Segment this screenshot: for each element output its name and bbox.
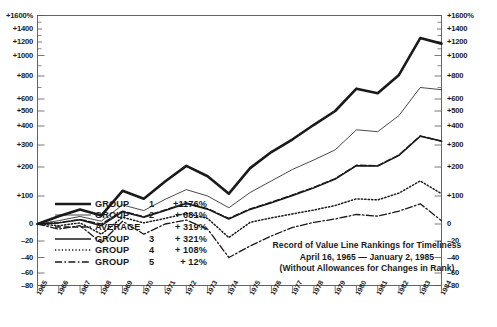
legend-line-swatch [55, 199, 91, 209]
y-label-right-1: +1400 [447, 25, 467, 33]
legend-series-value: + 12% [163, 257, 207, 267]
legend-series-value: + 319% [163, 222, 207, 232]
y-label-left-1: +1400 [0, 25, 33, 33]
title-line-2: April 16, 1965 — January 2, 1985 [253, 252, 481, 264]
legend-line-swatch [55, 245, 91, 255]
legend-series-value: + 321% [163, 234, 207, 244]
chart-title-block: Record of Value Line Rankings for Timeli… [253, 240, 481, 275]
legend-series-number: 3 [149, 234, 163, 244]
y-label-right-6: +500 [447, 107, 463, 115]
legend-line-swatch [55, 210, 91, 220]
line-chart-plot [0, 0, 497, 327]
legend-series-number: 4 [149, 245, 163, 255]
legend-row: GROUP1+1176% [55, 198, 207, 210]
y-label-right-10: +100 [447, 192, 463, 200]
y-label-left-2: +1200 [0, 38, 33, 46]
legend-series-value: + 681% [163, 210, 207, 220]
y-label-right-0: +1600% [447, 12, 474, 20]
series-line-group-1 [38, 38, 442, 224]
legend-series-value: + 108% [163, 245, 207, 255]
y-label-right-9: +200 [447, 163, 463, 171]
y-label-left-14: –60 [0, 269, 33, 277]
y-label-left-3: +1000 [0, 52, 33, 60]
y-label-left-13: –40 [0, 254, 33, 262]
legend-series-number: 5 [149, 257, 163, 267]
legend-series-name: GROUP [95, 257, 149, 267]
title-line-3: (Without Allowances for Changes in Rank) [253, 263, 481, 275]
legend-series-name: GROUP [95, 199, 149, 209]
legend-line-swatch [55, 222, 91, 232]
y-label-left-12: –20 [0, 237, 33, 245]
legend-row: GROUP2+ 681% [55, 210, 207, 222]
chart-root: +1600%+1400+1200+1000+800+600+500+400+30… [0, 0, 497, 327]
y-label-left-10: +100 [0, 192, 33, 200]
y-label-right-2: +1200 [447, 38, 467, 46]
y-label-left-4: +800 [0, 72, 33, 80]
y-label-left-6: +500 [0, 107, 33, 115]
legend-row: GROUP5+ 12% [55, 256, 207, 268]
y-label-right-8: +300 [447, 141, 463, 149]
y-label-left-5: +600 [0, 95, 33, 103]
legend-row: GROUP4+ 108% [55, 244, 207, 256]
legend-series-name: AVERAGE [95, 222, 149, 232]
legend-series-name: GROUP [95, 245, 149, 255]
y-label-right-4: +800 [447, 72, 463, 80]
legend-series-number: 1 [149, 199, 163, 209]
y-label-right-11: 0 [447, 220, 451, 228]
legend-row: AVERAGE+ 319% [55, 221, 207, 233]
title-line-1: Record of Value Line Rankings for Timeli… [253, 240, 481, 252]
y-label-right-5: +600 [447, 95, 463, 103]
y-label-left-9: +200 [0, 163, 33, 171]
legend-series-number: 2 [149, 210, 163, 220]
legend-line-swatch [55, 234, 91, 244]
y-label-right-7: +400 [447, 122, 463, 130]
legend-series-name: GROUP [95, 210, 149, 220]
legend-series-value: +1176% [163, 199, 207, 209]
legend-line-swatch [55, 257, 91, 267]
y-label-left-0: +1600% [0, 12, 33, 20]
y-label-left-7: +400 [0, 122, 33, 130]
legend-row: GROUP3+ 321% [55, 233, 207, 245]
y-label-left-8: +300 [0, 141, 33, 149]
y-label-left-15: –80 [0, 282, 33, 290]
y-label-right-3: +1000 [447, 52, 467, 60]
y-label-left-11: 0 [0, 220, 33, 228]
chart-legend: GROUP1+1176%GROUP2+ 681%AVERAGE+ 319%GRO… [55, 198, 207, 268]
legend-series-name: GROUP [95, 234, 149, 244]
